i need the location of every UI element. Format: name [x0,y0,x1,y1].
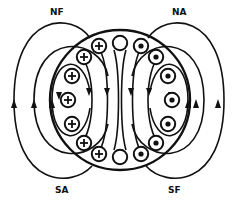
label-sa: SA [55,185,68,195]
conductors-right [134,39,179,161]
field-lines-inner [80,50,160,150]
arrow-up-icon [11,99,17,108]
diagram-canvas: NF NA SA SF [0,0,238,206]
field-diagram: NF NA SA SF [0,0,238,206]
conductors-left [61,39,106,161]
arrow-up-icon [31,99,37,108]
label-na: NA [172,7,187,17]
arrow-up-icon [193,99,199,108]
label-sf: SF [168,185,181,195]
label-nf: NF [50,7,64,17]
arrow-up-icon [215,99,221,108]
arrow-down-icon [146,88,152,96]
arrow-down-icon [104,88,110,96]
